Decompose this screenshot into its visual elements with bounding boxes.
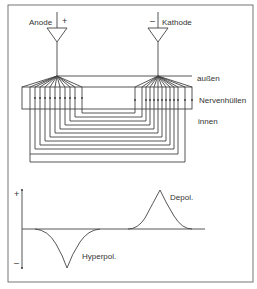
outside-label: außen xyxy=(197,75,220,83)
nerve-sheath-band xyxy=(22,87,192,109)
y-plus-label: + xyxy=(14,190,19,199)
anode-sign: + xyxy=(62,17,67,26)
anode-current-fan xyxy=(22,76,82,87)
y-minus-label: – xyxy=(14,259,19,268)
depol-label: Depol. xyxy=(170,194,193,202)
hyperpolarization-curve xyxy=(35,229,100,268)
anode-label: Anode xyxy=(29,19,52,27)
hyperpol-label: Hyperpol. xyxy=(82,253,116,261)
cathode-sign: – xyxy=(150,17,155,26)
current-loops xyxy=(30,87,185,162)
current-direction-arrows xyxy=(34,97,193,101)
stimulation-diagram xyxy=(0,0,257,289)
cathode-label: Kathode xyxy=(162,19,192,27)
figure-frame xyxy=(8,5,253,282)
cathode-current-fan xyxy=(135,76,192,87)
inside-label: innen xyxy=(198,118,218,126)
membrane-label: Nervenhüllen xyxy=(199,97,246,105)
